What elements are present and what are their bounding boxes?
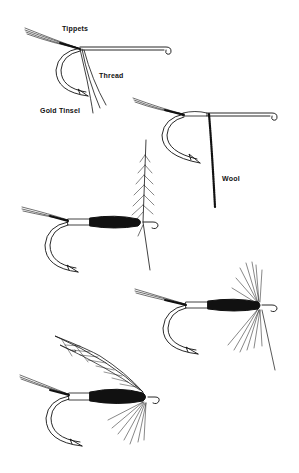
fly-tying-diagram [0, 0, 299, 473]
label-tippets: Tippets [62, 25, 88, 32]
stage-5-finished-fly [20, 336, 159, 446]
stage-3-hook [22, 140, 158, 272]
label-gold-tinsel: Gold Tinsel [40, 107, 80, 114]
stage-1-hook [25, 28, 171, 113]
stage-4-hook [135, 262, 277, 370]
label-wool: Wool [222, 175, 240, 182]
stage-2-hook [133, 98, 277, 207]
label-thread: Thread [99, 72, 124, 79]
